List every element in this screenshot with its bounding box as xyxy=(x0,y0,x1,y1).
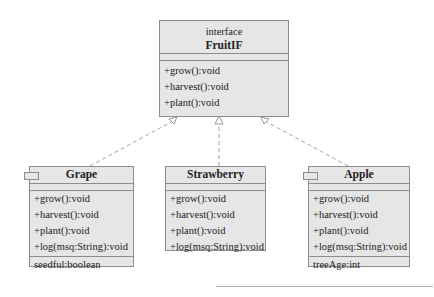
class-apple[interactable]: Apple +grow():void +harvest():void +plan… xyxy=(308,166,410,267)
stereotype-label: interface xyxy=(160,21,288,38)
class-grape[interactable]: Grape +grow():void +harvest():void +plan… xyxy=(29,166,134,267)
operation: +grow():void xyxy=(164,63,288,79)
operation: +grow():void xyxy=(313,191,409,207)
operations-compartment: +grow():void +harvest():void +plant():vo… xyxy=(166,191,265,256)
class-header: Strawberry xyxy=(166,167,265,184)
operation: +log(msq:String):void xyxy=(34,239,133,255)
attributes-compartment: treeAge:int xyxy=(309,256,409,272)
class-name: FruitIF xyxy=(160,38,288,52)
operations-compartment: +grow():void +harvest():void +plant():vo… xyxy=(309,191,409,256)
class-strawberry[interactable]: Strawberry +grow():void +harvest():void … xyxy=(165,166,266,251)
empty-compartment xyxy=(30,184,133,191)
strawberry-triangle-head-icon xyxy=(215,116,223,124)
operation: +plant():void xyxy=(34,223,133,239)
empty-compartment xyxy=(166,184,265,191)
apple-realization-edge xyxy=(265,121,348,166)
operation: +grow():void xyxy=(170,191,265,207)
component-tab-icon xyxy=(303,172,318,180)
operation: +harvest():void xyxy=(170,207,265,223)
grape-realization-edge xyxy=(90,121,173,166)
interface-fruitif[interactable]: interface FruitIF +grow():void +harvest(… xyxy=(159,20,289,117)
operation: +grow():void xyxy=(34,191,133,207)
operation: +log(msq:String):void xyxy=(170,239,265,255)
operation: +plant():void xyxy=(164,95,288,111)
attributes-compartment xyxy=(160,54,288,61)
operation: +harvest():void xyxy=(313,207,409,223)
class-name: Apple xyxy=(344,168,373,180)
class-name: Grape xyxy=(66,168,97,180)
class-header: interface FruitIF xyxy=(160,21,288,54)
attribute: treeAge:int xyxy=(313,257,409,272)
operations-compartment: +grow():void +harvest():void +plant():vo… xyxy=(30,191,133,256)
operation: +log(msq:String):void xyxy=(313,239,409,255)
operation: +plant():void xyxy=(170,223,265,239)
class-name: Strawberry xyxy=(187,168,244,180)
operation: +harvest():void xyxy=(34,207,133,223)
class-header: Grape xyxy=(30,167,133,184)
divider-line xyxy=(216,286,433,287)
operations-compartment: +grow():void +harvest():void +plant():vo… xyxy=(160,61,288,112)
attribute: seedful:boolean xyxy=(34,257,133,272)
class-header: Apple xyxy=(309,167,409,184)
component-tab-icon xyxy=(24,172,39,180)
operation: +harvest():void xyxy=(164,79,288,95)
empty-compartment xyxy=(309,184,409,191)
operation: +plant():void xyxy=(313,223,409,239)
attributes-compartment: seedful:boolean xyxy=(30,256,133,272)
